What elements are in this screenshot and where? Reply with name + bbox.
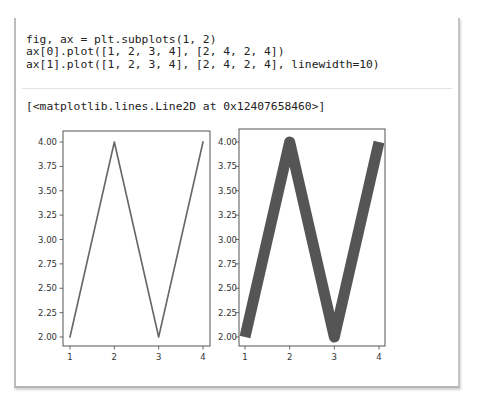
- y-tick-label: 2.25: [218, 308, 237, 318]
- y-tick-label: 2.50: [218, 283, 237, 293]
- x-tick-label: 1: [242, 352, 247, 362]
- y-tick-label: 3.75: [218, 161, 237, 171]
- y-tick-label: 2.75: [218, 259, 237, 269]
- figure: 2.002.252.502.753.003.253.503.754.001234…: [0, 0, 478, 400]
- y-tick-label: 3.75: [38, 161, 57, 171]
- y-tick-label: 2.00: [38, 332, 57, 342]
- subplot-right: 2.002.252.502.753.003.253.503.754.001234: [218, 129, 385, 362]
- y-tick-label: 3.50: [218, 186, 237, 196]
- y-tick-label: 3.25: [38, 210, 57, 220]
- y-tick-label: 4.00: [38, 137, 57, 147]
- x-tick-label: 3: [332, 352, 337, 362]
- x-tick-label: 1: [67, 352, 72, 362]
- x-tick-label: 2: [112, 352, 117, 362]
- y-tick-label: 2.75: [38, 259, 57, 269]
- y-tick-label: 2.00: [218, 332, 237, 342]
- y-tick-label: 3.00: [38, 235, 57, 245]
- x-tick-label: 2: [287, 352, 292, 362]
- y-tick-label: 3.25: [218, 210, 237, 220]
- y-tick-label: 2.50: [38, 283, 57, 293]
- y-tick-label: 3.00: [218, 235, 237, 245]
- x-tick-label: 4: [200, 352, 205, 362]
- x-tick-label: 4: [376, 352, 381, 362]
- subplot-left: 2.002.252.502.753.003.253.503.754.001234: [38, 131, 210, 362]
- y-tick-label: 2.25: [38, 308, 57, 318]
- y-tick-label: 4.00: [218, 137, 237, 147]
- y-tick-label: 3.50: [38, 186, 57, 196]
- x-tick-label: 3: [156, 352, 161, 362]
